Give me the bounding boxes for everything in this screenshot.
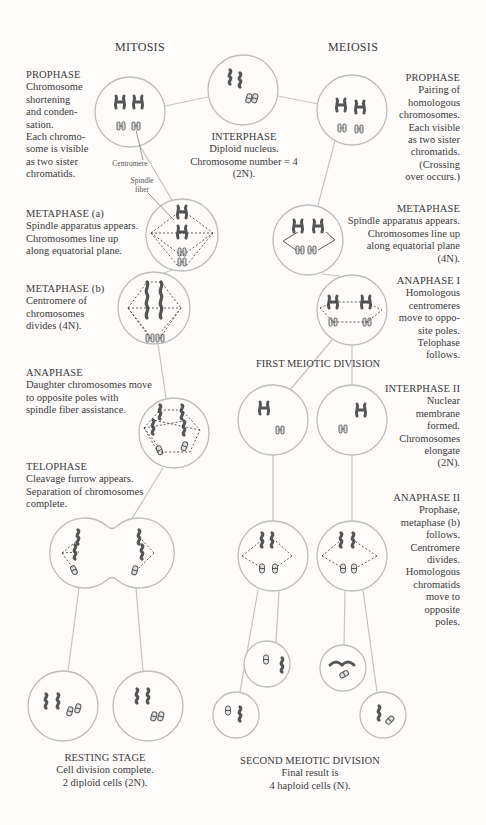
interphase-2-heading: INTERPHASE II	[380, 383, 460, 395]
mitosis-prophase-heading: PROPHASE	[26, 69, 106, 81]
text-line: sation.	[26, 119, 106, 131]
text-line: as two sister	[26, 156, 106, 168]
text-line: Centromere	[380, 542, 460, 554]
text-line: as two sister	[380, 134, 460, 146]
text-line: chromosomes.	[380, 109, 460, 121]
interphase-2-label: INTERPHASE II Nuclear membrane formed. C…	[380, 383, 460, 470]
metaphase-b-label: METAPHASE (b) Centromere of chromosomes …	[26, 283, 104, 333]
interphase-label: INTERPHASE Diploid nucleus. Chromosome n…	[190, 131, 298, 181]
text-line: Chromosomes line up	[330, 228, 460, 240]
text-line: follows.	[380, 349, 460, 361]
spindle-line: fiber	[122, 185, 162, 194]
meiosis-prophase-heading: PROPHASE	[380, 72, 460, 84]
interphase-line: Diploid nucleus.	[190, 143, 298, 155]
text-line: Separation of chromosomes	[26, 486, 143, 498]
anaphase-label: ANAPHASE Daughter chromosomes move to op…	[26, 367, 152, 417]
centromere-label: Centromere	[104, 159, 156, 168]
text-line: site poles.	[380, 325, 460, 337]
spindle-line: Spindle	[122, 176, 162, 185]
text-line: move to	[380, 591, 460, 603]
second-division-heading: SECOND MEIOTIC DIVISION	[225, 755, 395, 767]
text-line: spindle fiber assistance.	[26, 404, 152, 416]
text-line: elongate	[380, 445, 460, 457]
text-line: over occurs.)	[380, 171, 460, 183]
text-line: Each chromo-	[26, 131, 106, 143]
text-line: Final result is	[225, 767, 395, 779]
telophase-cell	[50, 518, 175, 588]
meiosis-metaphase-heading: METAPHASE	[330, 203, 460, 215]
text-line: (2N).	[380, 457, 460, 469]
text-line: poles.	[380, 616, 460, 628]
text-line: centromeres	[380, 300, 460, 312]
telophase-heading: TELOPHASE	[26, 461, 143, 473]
text-line: some is visible	[26, 143, 106, 155]
text-line: divides.	[380, 554, 460, 566]
text-line: membrane	[380, 408, 460, 420]
text-line: Chromosome	[26, 81, 106, 93]
text-line: 4 haploid cells (N).	[225, 780, 395, 792]
text-line: metaphase (b)	[380, 517, 460, 529]
meiosis-metaphase-label: METAPHASE Spindle apparatus appears. Chr…	[330, 203, 460, 265]
text-line: Daughter chromosomes move	[26, 379, 152, 391]
second-meiotic-division-label: SECOND MEIOTIC DIVISION Final result is …	[225, 755, 395, 792]
text-line: follows.	[380, 529, 460, 541]
text-line: Prophase,	[380, 504, 460, 516]
text-line: Chromosomes line up	[26, 233, 138, 245]
text-line: opposite	[380, 604, 460, 616]
text-line: Spindle apparatus appears.	[26, 220, 138, 232]
text-line: chromatids	[380, 579, 460, 591]
anaphase-2-label: ANAPHASE II Prophase, metaphase (b) foll…	[380, 492, 460, 628]
anaphase-2-heading: ANAPHASE II	[380, 492, 460, 504]
interphase-line: (2N).	[190, 168, 298, 180]
text-line: along equatorial plane.	[26, 245, 138, 257]
mitosis-prophase-label: PROPHASE Chromosome shortening and conde…	[26, 69, 106, 181]
text-line: chromosomes	[26, 308, 104, 320]
first-meiotic-division-label: FIRST MEIOTIC DIVISION	[256, 358, 380, 370]
text-line: Homologous	[380, 287, 460, 299]
text-line: Cell division complete.	[40, 764, 170, 776]
metaphase-a-label: METAPHASE (a) Spindle apparatus appears.…	[26, 208, 138, 258]
text-line: Homologous	[380, 566, 460, 578]
telophase-label: TELOPHASE Cleavage furrow appears. Separ…	[26, 461, 143, 511]
meiosis-title: MEIOSIS	[328, 40, 378, 55]
text-line: Chromosomes	[380, 433, 460, 445]
interphase-line: Chromosome number = 4	[190, 156, 298, 168]
metaphase-a-heading: METAPHASE (a)	[26, 208, 138, 220]
text-line: Spindle apparatus appears.	[330, 215, 460, 227]
mitosis-title: MITOSIS	[115, 40, 165, 55]
text-line: complete.	[26, 498, 143, 510]
text-line: (Crossing	[380, 159, 460, 171]
anaphase-1-heading: ANAPHASE I	[380, 275, 460, 287]
text-line: divides (4N).	[26, 320, 104, 332]
text-line: Centromere of	[26, 295, 104, 307]
metaphase-b-heading: METAPHASE (b)	[26, 283, 104, 295]
text-line: 2 diploid cells (2N).	[40, 777, 170, 789]
text-line: to opposite poles with	[26, 392, 152, 404]
text-line: Telophase	[380, 337, 460, 349]
meiosis-prophase-label: PROPHASE Pairing of homologous chromosom…	[380, 72, 460, 184]
resting-stage-label: RESTING STAGE Cell division complete. 2 …	[40, 752, 170, 789]
text-line: Nuclear	[380, 395, 460, 407]
text-line: chromatids.	[380, 146, 460, 158]
text-line: homologous	[380, 97, 460, 109]
text-line: formed.	[380, 420, 460, 432]
text-line: and conden-	[26, 106, 106, 118]
text-line: along equatorial plane	[330, 240, 460, 252]
text-line: Each visible	[380, 122, 460, 134]
interphase-heading: INTERPHASE	[190, 131, 298, 143]
anaphase-heading: ANAPHASE	[26, 367, 152, 379]
spindle-fiber-label: Spindle fiber	[122, 176, 162, 194]
resting-heading: RESTING STAGE	[40, 752, 170, 764]
text-line: chromatids.	[26, 168, 106, 180]
text-line: (4N).	[330, 253, 460, 265]
text-line: move to oppo-	[380, 312, 460, 324]
text-line: Cleavage furrow appears.	[26, 473, 143, 485]
text-line: shortening	[26, 94, 106, 106]
anaphase-1-label: ANAPHASE I Homologous centromeres move t…	[380, 275, 460, 362]
text-line: Pairing of	[380, 84, 460, 96]
